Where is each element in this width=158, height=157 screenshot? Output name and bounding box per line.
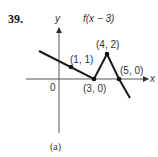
caption: (a): [50, 141, 61, 153]
point-label-3-0: (3, 0): [83, 83, 106, 94]
point-label-4-2: (4, 2): [96, 39, 119, 50]
point-3-0: [92, 77, 97, 82]
point-label-1-1: (1, 1): [70, 54, 93, 65]
y-axis-label: y: [54, 13, 61, 24]
point-5-0: [117, 77, 122, 82]
graph-title: f(x − 3): [83, 13, 114, 24]
origin-label: 0: [50, 82, 56, 93]
point-label-5-0: (5, 0): [120, 65, 143, 76]
x-axis-label: x: [149, 73, 156, 84]
point-4-2: [105, 52, 110, 57]
point-1-1: [69, 65, 74, 70]
graph: 39. y f(x − 3) x 0 (1, 1) (3, 0) (4, 2) …: [0, 0, 158, 157]
problem-number: 39.: [8, 12, 23, 26]
